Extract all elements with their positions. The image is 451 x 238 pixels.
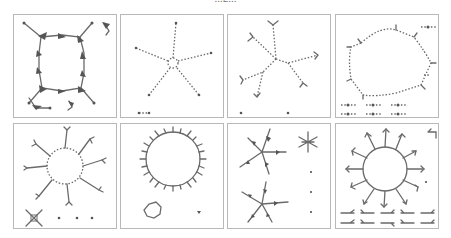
figure-caption: ...g...: [0, 0, 451, 2]
graph-drawing-square-cycle: [14, 15, 118, 119]
graph-panel-8: [335, 123, 439, 229]
graph-panel-2: [120, 14, 224, 118]
graph-panel-1: [13, 14, 117, 118]
graph-panel-5: [13, 123, 117, 229]
graph-drawing-sun-ring: [336, 124, 440, 230]
graph-drawing-star-components: [228, 124, 332, 230]
graph-panel-4: [335, 14, 439, 118]
asterisk-component: [299, 132, 317, 152]
forked-small-components: [341, 210, 434, 226]
cross-component: [26, 210, 42, 226]
graph-drawing-tree: [228, 15, 332, 119]
small-chain-components: [341, 26, 436, 116]
graph-drawing-large-ring: [336, 15, 440, 119]
graph-panel-6: [120, 123, 224, 229]
graph-panel-7: [227, 123, 331, 229]
star-component-top: [240, 129, 286, 174]
graph-panel-3: [227, 14, 331, 118]
graph-drawing-spiked-ring: [121, 124, 225, 230]
graph-drawing-ring-with-branches: [14, 124, 118, 230]
graph-drawing-five-star: [121, 15, 225, 119]
star-component-bottom: [242, 182, 288, 222]
